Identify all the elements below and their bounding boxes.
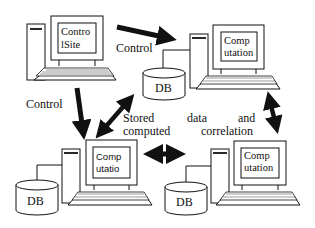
caption-word-stored: Stored	[123, 111, 154, 125]
caption-word-computed: computed	[123, 124, 170, 138]
bottom-right-computation-node: DB Comp utation	[165, 141, 300, 215]
control-label-left: Control	[26, 97, 63, 111]
computation-label-2: utation	[224, 47, 254, 58]
db-label: DB	[176, 195, 193, 209]
caption-word-and: and	[238, 111, 255, 125]
exchange-arrow-right	[270, 101, 276, 126]
db-label: DB	[155, 81, 172, 95]
computation-label-1: Comp	[244, 150, 270, 161]
bottom-left-computation-node: DB Comp utatio	[16, 140, 152, 215]
control-site-label-2: lSite	[61, 39, 81, 50]
computation-label-2: utation	[244, 162, 274, 173]
caption-word-correlation: correlation	[201, 124, 253, 138]
computation-label-1: Comp	[96, 151, 121, 162]
computation-label-1: Comp	[224, 35, 250, 46]
control-label-top: Control	[116, 41, 153, 55]
computation-label-2: utatio	[96, 163, 119, 174]
caption-word-data: data	[187, 111, 208, 125]
distributed-computing-diagram: Contro lSite DB Comp utation DB	[0, 0, 315, 228]
control-arrow-top	[117, 27, 168, 38]
db-label: DB	[27, 194, 44, 208]
control-site-computer: Contro lSite	[27, 16, 116, 80]
control-site-label-1: Contro	[61, 26, 90, 37]
control-arrow-left	[77, 88, 83, 131]
